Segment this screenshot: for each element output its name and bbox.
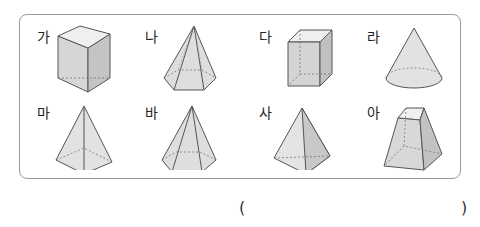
shape-label: 라: [367, 26, 380, 46]
shape-label: 사: [259, 102, 272, 122]
shape-item-ma: 마: [20, 94, 130, 170]
shape-item-a: 아: [350, 94, 460, 170]
shape-item-ba: 바: [128, 94, 238, 170]
triangular-prism-icon: [50, 22, 120, 94]
answer-blank[interactable]: [252, 196, 452, 218]
shape-item-sa: 사: [242, 94, 352, 170]
shape-label: 나: [145, 26, 158, 46]
square-pyramid-icon: [50, 98, 120, 170]
hexagonal-pyramid-icon: [158, 98, 228, 170]
shape-item-da: 다: [242, 18, 352, 94]
answer-close-paren: ): [461, 198, 467, 217]
shape-label: 가: [37, 26, 50, 46]
shape-label: 아: [367, 102, 380, 122]
shape-label: 다: [259, 26, 272, 46]
square-frustum-icon: [380, 98, 454, 174]
shape-label: 마: [37, 102, 50, 122]
cube-icon: [272, 22, 342, 94]
shape-item-na: 나: [128, 18, 238, 94]
triangular-pyramid-icon: [272, 98, 342, 170]
shape-item-ga: 가: [20, 18, 130, 94]
shape-label: 바: [145, 102, 158, 122]
hexagonal-pyramid-icon: [158, 22, 228, 94]
cone-icon: [380, 22, 450, 94]
shape-item-ra: 라: [350, 18, 460, 94]
answer-open-paren: (: [239, 198, 245, 217]
